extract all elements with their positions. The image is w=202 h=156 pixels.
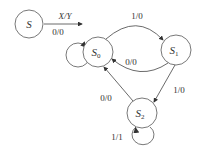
legend-arrow-example: 0/0 [52, 27, 64, 37]
legend: S X/Y 0/0 [15, 10, 82, 38]
s2-self-loop-label: 1/1 [111, 132, 123, 142]
s2-self-loop-arrowhead [136, 128, 137, 131]
state-s2: S2 [127, 98, 157, 128]
diagram-canvas: S X/Y 0/0 S0 S1 S2 1/0 0/0 1/0 0/0 1/1 [0, 0, 202, 156]
state-s0: S0 [83, 37, 113, 67]
legend-state-label: S [26, 18, 32, 30]
edge-s0-s1-label: 1/0 [131, 11, 143, 21]
legend-arrow-label: X/Y [57, 11, 72, 21]
state-diagram: S X/Y 0/0 S0 S1 S2 1/0 0/0 1/0 0/0 1/1 [0, 0, 202, 156]
edge-s1-s2 [154, 65, 175, 102]
edge-s1-s0 [112, 59, 168, 72]
edge-s1-s2-label: 1/0 [173, 85, 185, 95]
edge-s0-s1 [106, 26, 163, 40]
edge-s1-s0-label: 0/0 [125, 57, 137, 67]
edge-s2-s0-label: 0/0 [100, 93, 112, 103]
state-s1: S1 [161, 35, 191, 65]
